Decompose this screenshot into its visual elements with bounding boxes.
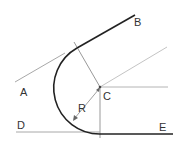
line-parallel-through-c [100, 47, 167, 87]
center-point-c [99, 86, 102, 89]
radius-arrowhead-icon [73, 115, 78, 121]
label-a: A [20, 86, 28, 98]
label-r: R [78, 102, 86, 114]
line-perpendicular-upper [74, 42, 100, 87]
label-d: D [17, 119, 25, 131]
label-c: C [103, 90, 111, 102]
line-b [77, 15, 135, 48]
line-a-construction [15, 53, 65, 82]
diagram-canvas: A B C D E R [0, 0, 183, 142]
label-b: B [134, 16, 141, 28]
label-e: E [159, 121, 166, 133]
tangent-arc [54, 48, 100, 134]
